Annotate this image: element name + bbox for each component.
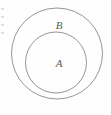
edge-artifact-mark: [1, 8, 4, 10]
set-label-b: B: [53, 20, 65, 31]
euler-diagram-figure: B A: [0, 0, 111, 115]
edge-artifact-mark: [1, 16, 4, 18]
edge-artifact-mark: [1, 24, 4, 26]
cropped-edge-artifacts: [0, 6, 5, 44]
set-label-a: A: [53, 58, 65, 69]
edge-artifact-mark: [1, 32, 4, 34]
